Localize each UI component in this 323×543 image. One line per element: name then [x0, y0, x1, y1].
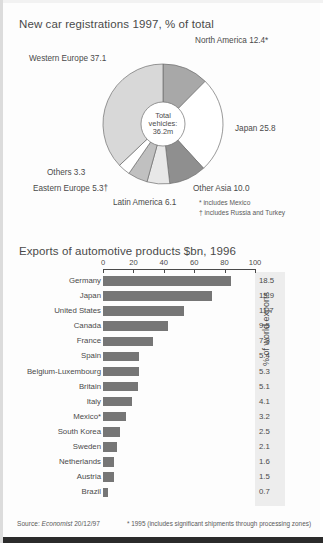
bar-value: 4.1: [259, 397, 270, 406]
bar-fill: [103, 306, 184, 315]
bar-track: [103, 321, 255, 330]
source-date: 20/12/97: [72, 520, 100, 527]
bar-fill: [103, 337, 153, 346]
bar-label-south-korea: South Korea: [58, 427, 101, 436]
bar-row: Spain5.4: [3, 349, 323, 364]
bar-row: Sweden2.1: [3, 440, 323, 455]
bar-chart-footnote: * 1995 (includes significant shipments t…: [127, 520, 311, 527]
axis-line: [103, 269, 255, 270]
bar-row: Belgium-Luxembourg5.3: [3, 365, 323, 380]
bar-value: 2.5: [259, 427, 270, 436]
pie-footnote-2: † includes Russia and Turkey: [199, 208, 285, 218]
bar-row: United States11.7: [3, 304, 323, 319]
source-row: Source: Economist 20/12/97 * 1995 (inclu…: [3, 520, 323, 534]
bar-row: Austria1.5: [3, 470, 323, 485]
bar-label-spain: Spain: [81, 351, 101, 360]
bar-row: Italy4.1: [3, 395, 323, 410]
bar-fill: [103, 352, 139, 361]
bar-track: [103, 367, 255, 376]
bar-value: 18.5: [259, 276, 274, 285]
pie-label-eastern-europe: Eastern Europe 5.3†: [33, 184, 108, 193]
pie-chart: Total vehicles: 36.2m North America 12.4…: [3, 32, 323, 212]
pie-footnotes: * includes Mexico † includes Russia and …: [199, 198, 285, 217]
bar-label-germany: Germany: [69, 276, 101, 285]
source-note: Source: Economist 20/12/97: [17, 520, 100, 527]
source-publication: Economist: [42, 520, 73, 527]
bar-fill: [103, 291, 212, 300]
pie-chart-title: New car registrations 1997, % of total: [19, 18, 214, 30]
axis-tick-label-60: 60: [190, 258, 198, 267]
axis-tick-60: [194, 269, 195, 273]
bar-row: Canada9.5: [3, 319, 323, 334]
bar-fill: [103, 367, 139, 376]
page-bottom-bar: [3, 537, 323, 543]
axis-tick-label-100: 100: [249, 258, 262, 267]
bar-row: Britain5.1: [3, 380, 323, 395]
bar-value: 2.1: [259, 442, 270, 451]
bar-row: Mexico*3.2: [3, 410, 323, 425]
bar-label-netherlands: Netherlands: [59, 457, 101, 466]
bar-label-britain: Britain: [79, 382, 101, 391]
bar-fill: [103, 488, 108, 497]
bar-value: 5.3: [259, 367, 270, 376]
bar-label-sweden: Sweden: [73, 442, 101, 451]
bar-fill: [103, 321, 168, 330]
bar-label-italy: Italy: [87, 397, 101, 406]
bar-fill: [103, 412, 126, 421]
bar-fill: [103, 276, 231, 285]
bar-label-united-states: United States: [54, 306, 101, 315]
bar-fill: [103, 472, 114, 481]
pie-label-north-america: North America 12.4*: [195, 36, 268, 45]
pie-label-latin-america: Latin America 6.1: [113, 198, 176, 207]
bar-rows: Germany18.5Japan15.9United States11.7Can…: [3, 274, 323, 500]
bar-row: France7.3: [3, 334, 323, 349]
axis-tick-40: [164, 269, 165, 273]
bar-track: [103, 472, 255, 481]
bar-track: [103, 457, 255, 466]
bar-value: 5.1: [259, 382, 270, 391]
bar-track: [103, 382, 255, 391]
bar-track: [103, 397, 255, 406]
bar-track: [103, 442, 255, 451]
bar-track: [103, 352, 255, 361]
bar-value: 0.7: [259, 487, 270, 496]
bar-chart: 020406080100 Germany18.5Japan15.9United …: [3, 258, 323, 520]
bar-track: [103, 291, 255, 300]
axis-tick-80: [225, 269, 226, 273]
bar-track: [103, 488, 255, 497]
bar-track: [103, 337, 255, 346]
bar-track: [103, 306, 255, 315]
bar-fill: [103, 397, 132, 406]
scan-edge-top: [3, 0, 323, 3]
bar-chart-title: Exports of automotive products $bn, 1996: [19, 245, 236, 257]
bar-fill: [103, 442, 117, 451]
bar-label-canada: Canada: [74, 321, 101, 330]
bar-label-brazil: Brazil: [82, 487, 102, 496]
pie-label-other-asia: Other Asia 10.0: [193, 184, 249, 193]
bar-value: 3.2: [259, 412, 270, 421]
axis-tick-label-80: 80: [220, 258, 228, 267]
source-prefix: Source:: [17, 520, 42, 527]
pie-footnote-1: * includes Mexico: [199, 198, 285, 208]
bar-label-japan: Japan: [80, 291, 101, 300]
bar-fill: [103, 457, 114, 466]
bar-value: 1.6: [259, 457, 270, 466]
bar-value: 1.5: [259, 472, 270, 481]
bar-chart-y-axis-label: % of world exports: [261, 292, 271, 366]
bar-fill: [103, 427, 120, 436]
axis-tick-label-0: 0: [101, 258, 105, 267]
bar-label-belgium-luxembourg: Belgium-Luxembourg: [27, 367, 101, 376]
bar-row: Germany18.5: [3, 274, 323, 289]
bar-row: Japan15.9: [3, 289, 323, 304]
axis-tick-0: [103, 269, 104, 273]
bar-label-france: France: [77, 336, 101, 345]
bar-track: [103, 427, 255, 436]
bar-track: [103, 276, 255, 285]
bar-label-mexico: Mexico*: [73, 412, 101, 421]
bar-row: South Korea2.5: [3, 425, 323, 440]
bar-row: Netherlands1.6: [3, 455, 323, 470]
pie-label-others: Others 3.3: [47, 168, 85, 177]
bar-label-austria: Austria: [77, 472, 101, 481]
axis-tick-label-40: 40: [160, 258, 168, 267]
